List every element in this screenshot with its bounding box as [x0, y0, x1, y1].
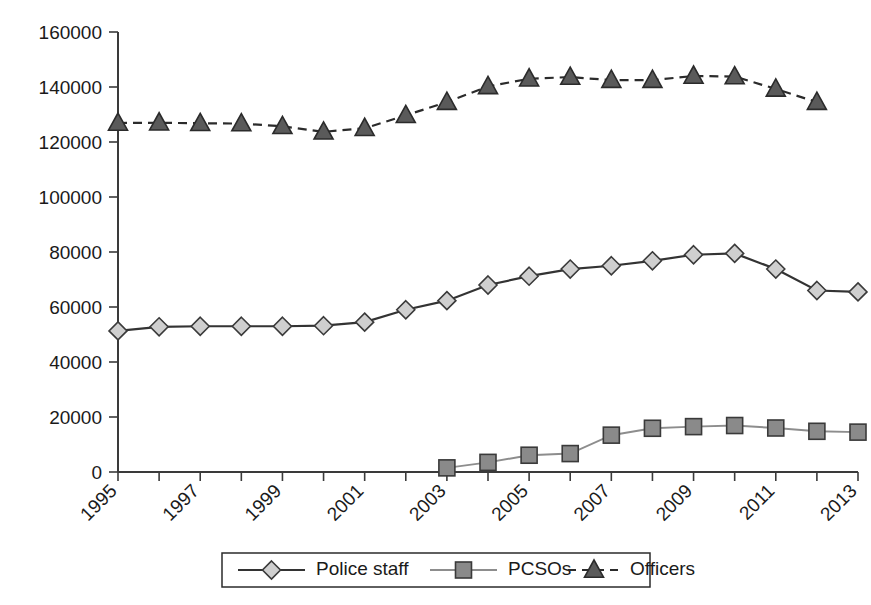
series-pcsos-point-2010-square-marker	[727, 418, 743, 434]
series-police-staff-point-1995-diamond-marker	[109, 322, 127, 340]
series-police-staff-point-2002-diamond-marker	[397, 301, 415, 319]
series-officers-point-2003-triangle-marker	[437, 92, 456, 109]
y-tick-label-0: 0	[91, 462, 102, 483]
x-tick-label-2005: 2005	[487, 480, 532, 525]
series-officers-point-2009-triangle-marker	[684, 66, 703, 83]
y-tick-label-100000: 100000	[39, 187, 102, 208]
series-officers-point-2002-triangle-marker	[396, 105, 415, 122]
series-police-staff-point-2008-diamond-marker	[643, 252, 661, 270]
series-officers-point-2001-triangle-marker	[355, 118, 374, 135]
series-police-staff-point-2012-diamond-marker	[808, 282, 826, 300]
x-tick-label-2003: 2003	[405, 480, 450, 525]
series-officers-point-1998-triangle-marker	[232, 114, 251, 131]
series-officers-point-2012-triangle-marker	[807, 92, 826, 109]
series-pcsos-point-2005-square-marker	[521, 447, 537, 463]
series-pcsos-point-2009-square-marker	[686, 419, 702, 435]
legend-label-officers[interactable]: Officers	[630, 558, 695, 579]
y-tick-label-160000: 160000	[39, 22, 102, 43]
series-pcsos-point-2007-square-marker	[603, 427, 619, 443]
series-officers-point-2006-triangle-marker	[561, 67, 580, 84]
x-tick-label-2011: 2011	[735, 480, 779, 524]
series-line-officers	[118, 76, 817, 132]
series-officers-point-1995-triangle-marker	[109, 113, 128, 130]
series-police-staff-point-2013-diamond-marker	[849, 283, 867, 301]
series-officers-point-1996-triangle-marker	[150, 113, 169, 130]
series-pcsos-point-2003-square-marker	[439, 460, 455, 476]
series-police-staff-point-1996-diamond-marker	[150, 318, 168, 336]
series-pcsos-point-2012-square-marker	[809, 423, 825, 439]
x-tick-label-2001: 2001	[323, 480, 368, 525]
series-police-staff-point-1997-diamond-marker	[191, 317, 209, 335]
legend-label-pcsos[interactable]: PCSOs	[508, 558, 571, 579]
x-tick-label-2007: 2007	[569, 480, 614, 525]
y-tick-label-40000: 40000	[49, 352, 102, 373]
series-police-staff-point-2000-diamond-marker	[315, 317, 333, 335]
series-police-staff-point-2006-diamond-marker	[561, 260, 579, 278]
series-police-staff-point-2004-diamond-marker	[479, 276, 497, 294]
series-pcsos-point-2004-square-marker	[480, 454, 496, 470]
series-officers-point-1997-triangle-marker	[191, 113, 210, 130]
series-police-staff-point-1998-diamond-marker	[232, 317, 250, 335]
series-officers-point-2004-triangle-marker	[479, 76, 498, 93]
series-pcsos-point-2011-square-marker	[768, 420, 784, 436]
x-tick-label-1995: 1995	[76, 480, 121, 525]
series-pcsos-point-2006-square-marker	[562, 446, 578, 462]
legend-pcsos-square-marker	[456, 562, 472, 578]
x-tick-label-1999: 1999	[241, 480, 286, 525]
x-tick-label-2013: 2013	[816, 480, 861, 525]
line-chart: 0200004000060000800001000001200001400001…	[0, 0, 871, 605]
series-police-staff-point-1999-diamond-marker	[273, 317, 291, 335]
series-pcsos-point-2008-square-marker	[644, 420, 660, 436]
y-tick-label-120000: 120000	[39, 132, 102, 153]
series-officers-point-2010-triangle-marker	[725, 67, 744, 84]
y-tick-label-20000: 20000	[49, 407, 102, 428]
series-police-staff-point-2010-diamond-marker	[726, 244, 744, 262]
series-pcsos-point-2013-square-marker	[850, 424, 866, 440]
y-tick-label-140000: 140000	[39, 77, 102, 98]
series-police-staff-point-2003-diamond-marker	[438, 292, 456, 310]
series-officers-point-2008-triangle-marker	[643, 70, 662, 87]
series-police-staff-point-2005-diamond-marker	[520, 267, 538, 285]
series-police-staff-point-2011-diamond-marker	[767, 260, 785, 278]
series-officers-point-2005-triangle-marker	[520, 69, 539, 86]
chart-container: 0200004000060000800001000001200001400001…	[0, 0, 871, 605]
y-tick-label-60000: 60000	[49, 297, 102, 318]
x-tick-label-2009: 2009	[652, 480, 697, 525]
x-tick-label-1997: 1997	[158, 480, 203, 525]
series-police-staff-point-2001-diamond-marker	[356, 313, 374, 331]
series-police-staff-point-2009-diamond-marker	[685, 246, 703, 264]
y-tick-label-80000: 80000	[49, 242, 102, 263]
legend-label-police-staff[interactable]: Police staff	[316, 558, 409, 579]
series-police-staff-point-2007-diamond-marker	[602, 257, 620, 275]
